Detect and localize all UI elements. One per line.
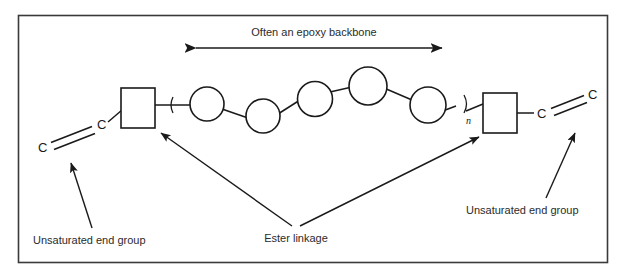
ester-group-right [483,93,517,133]
end-group-left-label: Unsaturated end group [33,234,146,246]
atom-right-outer: C [588,87,597,102]
atom-left-outer: C [38,140,47,155]
left-double-bond-line-b [54,134,95,150]
backbone-unit-2 [246,99,280,133]
ester-linkage-label: Ester linkage [264,232,328,244]
ester-linkage-leader-left [161,133,292,226]
end-group-right-label: Unsaturated end group [466,204,579,216]
right-double-bond-line-b [554,103,587,116]
backbone-unit-3 [298,82,333,117]
backbone-label: Often an epoxy backbone [251,26,376,38]
backbone-link-1 [222,109,248,118]
polymer-structure-diagram: Often an epoxy backbone C C n C C Unsatu… [0,0,627,273]
figure-canvas: Often an epoxy backbone C C n C C Unsatu… [0,0,627,273]
backbone-link-2 [278,100,300,114]
backbone-unit-5 [410,87,446,123]
backbone-link-4 [384,88,412,100]
ester-linkage-leader-right [300,137,479,226]
figure-border [19,16,608,263]
atom-right-inner: C [537,106,546,121]
left-bond-to-ester [108,110,122,122]
right-double-bond-line-a [551,96,584,109]
end-group-right-leader [546,133,575,198]
repeat-subscript: n [466,115,471,126]
right-backbone-connector [466,104,483,111]
end-group-left-leader [71,163,92,228]
ester-group-left [121,88,155,128]
atom-left-inner: C [97,117,106,132]
backbone-unit-4 [349,67,387,105]
backbone-unit-1 [190,87,224,121]
left-double-bond-line-a [51,127,92,143]
